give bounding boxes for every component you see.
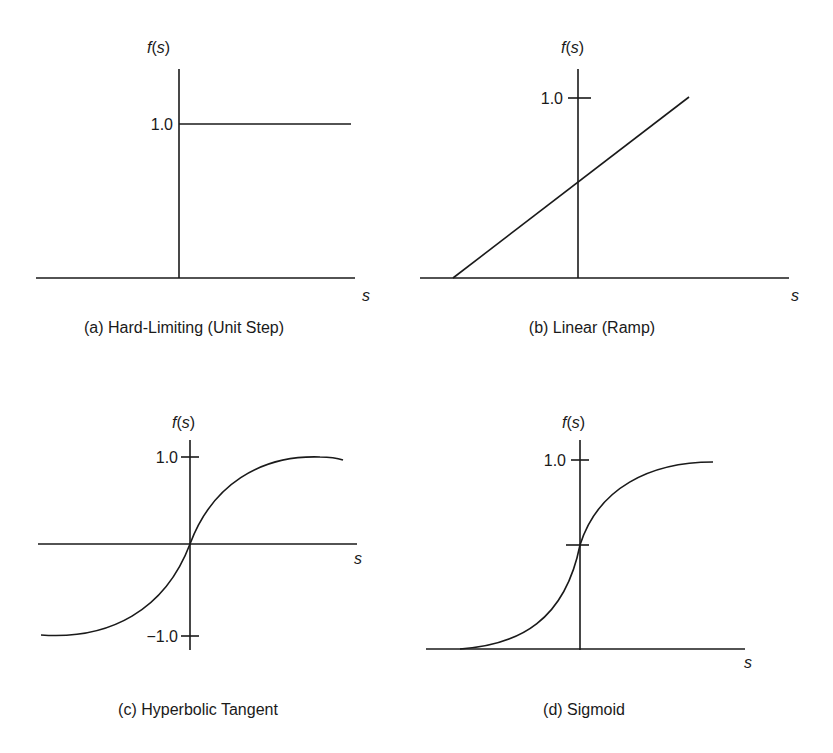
caption: (c) Hyperbolic Tangent bbox=[118, 701, 278, 718]
tick-label-1: 1.0 bbox=[541, 90, 563, 107]
y-axis-label: f(s) bbox=[147, 39, 170, 56]
activation-functions-figure: f(s) 1.0 s (a) Hard-Limiting (Unit Step)… bbox=[0, 0, 833, 753]
caption: (d) Sigmoid bbox=[543, 701, 625, 718]
x-axis-label: s bbox=[362, 287, 370, 304]
caption: (a) Hard-Limiting (Unit Step) bbox=[84, 319, 284, 336]
y-axis-label: f(s) bbox=[562, 414, 585, 431]
x-axis-label: s bbox=[354, 550, 362, 567]
tick-label-1: 1.0 bbox=[156, 449, 178, 466]
panel-c-hyperbolic-tangent: f(s) 1.0 −1.0 s (c) Hyperbolic Tangent bbox=[38, 414, 362, 718]
panel-b-linear-ramp: f(s) 1.0 s (b) Linear (Ramp) bbox=[420, 39, 799, 336]
y-axis-label: f(s) bbox=[561, 39, 584, 56]
x-axis-label: s bbox=[791, 287, 799, 304]
y-axis-label: f(s) bbox=[172, 414, 195, 431]
panel-d-sigmoid: f(s) 1.0 s (d) Sigmoid bbox=[426, 414, 752, 718]
tick-label-1: 1.0 bbox=[151, 116, 173, 133]
caption: (b) Linear (Ramp) bbox=[529, 319, 655, 336]
tick-label-minus-1: −1.0 bbox=[146, 628, 178, 645]
x-axis-label: s bbox=[744, 654, 752, 671]
panel-a-unit-step: f(s) 1.0 s (a) Hard-Limiting (Unit Step) bbox=[36, 39, 370, 336]
ramp-curve bbox=[453, 97, 689, 278]
tick-label-1: 1.0 bbox=[544, 452, 566, 469]
tanh-curve bbox=[41, 457, 343, 636]
sigmoid-curve bbox=[460, 462, 713, 649]
